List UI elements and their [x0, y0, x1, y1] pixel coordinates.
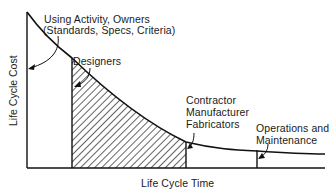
- contractor-leader-arrow: [187, 133, 194, 149]
- owners-label-line2: (Standards, Specs, Criteria): [43, 25, 175, 36]
- contractor-label-line1: Contractor: [186, 95, 236, 106]
- om-label-line1: Operations and: [256, 123, 329, 134]
- contractor-label-line2: Manufacturer: [186, 107, 249, 118]
- designers-label: Designers: [73, 56, 121, 67]
- om-label-line2: Maintenance: [256, 135, 317, 146]
- x-axis-label: Life Cycle Time: [141, 178, 214, 189]
- y-axis-label: Life Cycle Cost: [7, 55, 19, 126]
- contractor-label-line3: Fabricators: [186, 119, 240, 130]
- owners-leader-arrow: [28, 36, 58, 70]
